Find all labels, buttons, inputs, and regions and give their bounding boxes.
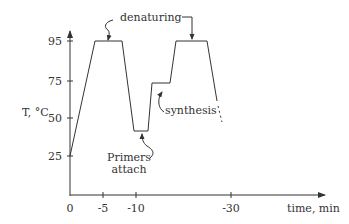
denaturing-arrow-right [182, 17, 192, 39]
y-tick-25: 25 [38, 151, 62, 162]
synthesis-arrow [159, 92, 164, 112]
x-tick-5: -5 [98, 203, 109, 214]
y-axis-label: T, °C [22, 107, 49, 118]
denaturing-arrow-left [105, 20, 113, 40]
denaturing-label: denaturing [120, 12, 182, 23]
pcr-diagram: 95 75 50 25 T, °C 0 -5 -10 -30 time, min… [0, 0, 349, 224]
y-tick-95: 95 [38, 36, 62, 47]
primers-label-line2: attach [111, 164, 146, 175]
x-axis [70, 192, 325, 198]
y-tick-75: 75 [38, 76, 62, 87]
x-tick-10: -10 [127, 203, 145, 214]
x-tick-0: 0 [67, 203, 74, 214]
synthesis-label: synthesis [165, 105, 217, 116]
x-axis-label: time, min [287, 203, 340, 214]
y-axis [67, 31, 73, 196]
x-tick-30: -30 [222, 203, 240, 214]
primers-label-line1: Primers [107, 152, 151, 163]
temperature-profile-line [70, 41, 217, 156]
continuation-dashed-line [218, 106, 222, 122]
